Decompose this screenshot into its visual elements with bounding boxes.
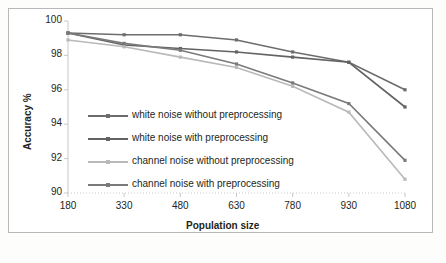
legend-marker-icon <box>106 160 110 164</box>
series-marker <box>235 38 238 41</box>
legend-label: channel noise without preprocessing <box>132 155 294 166</box>
legend-marker-icon <box>106 114 110 118</box>
series-marker <box>235 50 238 53</box>
legend-label: channel noise with preprocessing <box>132 178 280 189</box>
y-tick-label: 92 <box>0 152 62 163</box>
x-tick-label: 330 <box>104 200 144 211</box>
legend-marker-icon <box>106 183 110 187</box>
series-marker <box>123 33 126 36</box>
series-marker <box>403 105 406 108</box>
legend-marker-icon <box>106 137 110 141</box>
series-marker <box>347 111 350 114</box>
x-tick-label: 630 <box>217 200 257 211</box>
series-marker <box>291 56 294 59</box>
x-axis-title: Population size <box>186 220 259 231</box>
series-marker <box>347 102 350 105</box>
series-marker <box>66 31 69 34</box>
series-marker <box>179 49 182 52</box>
x-tick-label: 480 <box>160 200 200 211</box>
series-marker <box>235 66 238 69</box>
y-tick-label: 98 <box>0 48 62 59</box>
series-marker <box>291 81 294 84</box>
series-marker <box>123 45 126 48</box>
series-marker <box>403 88 406 91</box>
series-marker <box>235 62 238 65</box>
x-tick-label: 930 <box>329 200 369 211</box>
series-marker <box>291 85 294 88</box>
series-line <box>68 33 405 107</box>
series-marker <box>291 50 294 53</box>
series-marker <box>179 33 182 36</box>
chart-figure: 9092949698100 1803304806307809301080 Acc… <box>0 0 446 263</box>
y-tick-label: 100 <box>0 14 62 25</box>
series-marker <box>123 42 126 45</box>
x-tick-label: 780 <box>273 200 313 211</box>
series-marker <box>403 178 406 181</box>
legend-label: white noise without preprocessing <box>132 109 282 120</box>
series-marker <box>347 61 350 64</box>
series-marker <box>403 159 406 162</box>
series-marker <box>66 38 69 41</box>
y-axis-title: Accuracy % <box>22 93 33 150</box>
legend-label: white noise with preprocessing <box>132 132 268 143</box>
y-tick-label: 90 <box>0 186 62 197</box>
x-tick-label: 1080 <box>385 200 425 211</box>
series-marker <box>179 56 182 59</box>
x-tick-label: 180 <box>48 200 88 211</box>
